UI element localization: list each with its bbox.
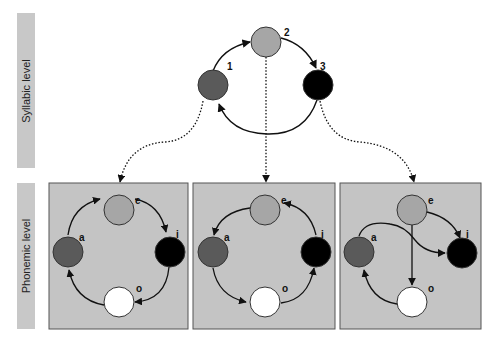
phoneme-label-i: i (176, 229, 179, 240)
phonemic-panel-2: a e i o (193, 183, 335, 329)
phoneme-label-i: i (321, 229, 324, 240)
phoneme-label-o: o (282, 283, 288, 294)
phonemic-panel-3: a e i o (340, 183, 481, 329)
syllable-label-1: 1 (227, 61, 233, 72)
syllable-node-2 (251, 27, 281, 57)
phoneme-label-e: e (135, 195, 141, 206)
phoneme-label-e: e (281, 195, 287, 206)
syllable-node-3 (303, 70, 333, 100)
phoneme-label-a: a (224, 232, 230, 243)
diagram-canvas: 1 2 3 a e i o a e i o (0, 0, 498, 344)
syllabic-graph: 1 2 3 (120, 27, 414, 182)
phoneme-label-o: o (428, 283, 434, 294)
phoneme-label-a: a (79, 232, 85, 243)
syllable-node-1 (198, 70, 228, 100)
phonemic-panel-1: a e i o (49, 42, 188, 329)
phoneme-label-o: o (136, 283, 142, 294)
syllable-label-2: 2 (284, 27, 290, 38)
phoneme-label-i: i (466, 229, 469, 240)
syllable-label-3: 3 (320, 61, 326, 72)
phoneme-label-a: a (371, 232, 377, 243)
phoneme-label-e: e (428, 195, 434, 206)
